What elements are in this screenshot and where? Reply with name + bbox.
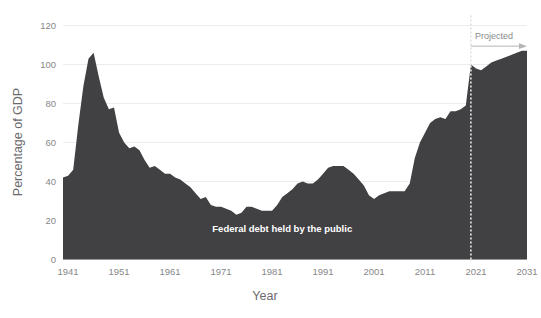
y-tick-label-40: 40 [45,176,56,187]
chart-canvas: 0204060801001201941195119611971198119912… [0,0,541,318]
y-tick-label-80: 80 [45,98,56,109]
x-tick-label-2021: 2021 [465,266,486,277]
y-tick-label-60: 60 [45,137,56,148]
x-tick-label-1991: 1991 [312,266,333,277]
y-axis-title: Percentage of GDP [11,88,25,196]
debt-to-gdp-area-chart: 0204060801001201941195119611971198119912… [0,0,541,318]
x-tick-label-1941: 1941 [58,266,79,277]
x-tick-label-1971: 1971 [210,266,231,277]
y-tick-label-20: 20 [45,215,56,226]
series-inline-label: Federal debt held by the public [212,223,352,234]
x-tick-label-2011: 2011 [415,266,435,277]
y-tick-label-100: 100 [40,59,56,70]
x-tick-label-1981: 1981 [261,266,282,277]
projected-label: Projected [475,31,513,41]
y-tick-label-0: 0 [51,254,56,265]
projected-arrow-head [519,43,527,49]
x-tick-label-2031: 2031 [516,266,537,277]
x-tick-label-1951: 1951 [109,266,130,277]
x-tick-label-1961: 1961 [160,266,181,277]
x-tick-label-2001: 2001 [363,266,384,277]
x-axis-title: Year [252,289,277,303]
y-tick-label-120: 120 [40,20,56,31]
